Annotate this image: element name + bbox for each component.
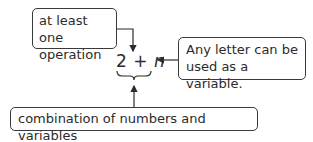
callout-operation-line-2: operation [39,46,110,63]
callout-variable-line-1: Any letter can be [186,41,298,58]
callout-variable-line-2: used as a variable. [186,58,298,92]
algebraic-expression: 2 + n [116,51,165,71]
expression-number: 2 [116,51,127,71]
callout-variable: Any letter can be used as a variable. [178,37,306,80]
expression-variable: n [154,51,165,71]
callout-operation: at least one operation [32,8,117,49]
brace-under-expression [117,71,151,80]
callout-combination-line-1: combination of numbers and variables [18,110,250,142]
callout-combination: combination of numbers and variables [10,107,258,131]
callout-operation-line-1: at least one [39,12,110,46]
arrow-to-operator [117,29,133,51]
expression-operator: + [133,51,148,71]
